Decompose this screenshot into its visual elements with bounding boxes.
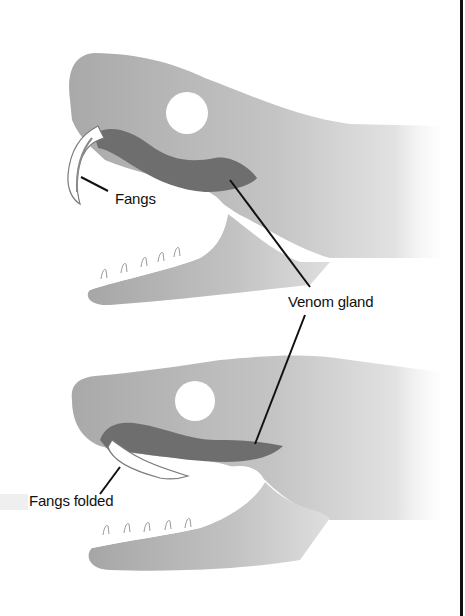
eye — [175, 381, 215, 421]
diagram-canvas: Fangs Venom gland Fangs folded — [0, 0, 465, 616]
snake-heads-illustration — [0, 0, 465, 616]
print-smudge — [0, 494, 28, 510]
label-fangs-folded: Fangs folded — [29, 492, 113, 509]
head-open-mouth — [68, 53, 440, 305]
label-venom-gland: Venom gland — [288, 293, 373, 310]
page-edge-border — [460, 0, 463, 616]
eye — [166, 92, 208, 134]
head-fangs-folded — [72, 355, 440, 570]
label-fangs: Fangs — [115, 190, 156, 207]
